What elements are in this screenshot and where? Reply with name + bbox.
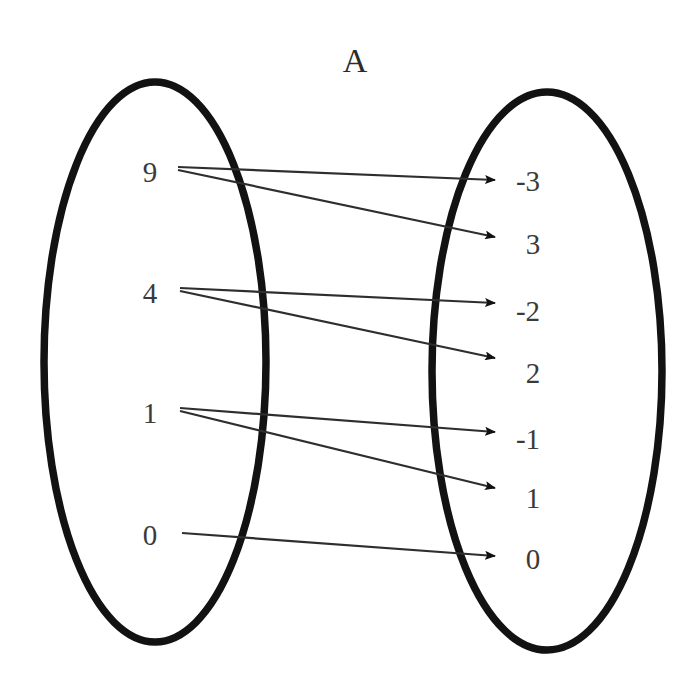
set-title-a: A bbox=[343, 42, 368, 79]
arrow-9-to-3 bbox=[178, 170, 495, 237]
domain-element-1: 1 bbox=[143, 397, 158, 429]
domain-element-0: 0 bbox=[143, 519, 158, 551]
arrow-0-to-0 bbox=[182, 533, 495, 556]
codomain-element-3: 3 bbox=[526, 228, 541, 260]
mapping-diagram: A 9 4 1 0 -3 3 -2 2 -1 1 0 bbox=[0, 0, 685, 677]
domain-element-9: 9 bbox=[143, 156, 158, 188]
arrow-1-to-neg1 bbox=[180, 408, 495, 432]
arrow-1-to-1 bbox=[180, 411, 495, 488]
codomain-element-1: 1 bbox=[526, 482, 541, 514]
domain-element-4: 4 bbox=[143, 277, 158, 309]
codomain-element-neg3: -3 bbox=[516, 165, 540, 197]
codomain-set-ellipse bbox=[432, 92, 662, 650]
codomain-element-neg2: -2 bbox=[516, 295, 540, 327]
arrow-9-to-neg3 bbox=[178, 167, 495, 180]
codomain-element-neg1: -1 bbox=[516, 423, 540, 455]
diagram-canvas: A 9 4 1 0 -3 3 -2 2 -1 1 0 bbox=[0, 0, 685, 677]
codomain-element-2: 2 bbox=[526, 357, 541, 389]
codomain-element-0: 0 bbox=[526, 543, 541, 575]
